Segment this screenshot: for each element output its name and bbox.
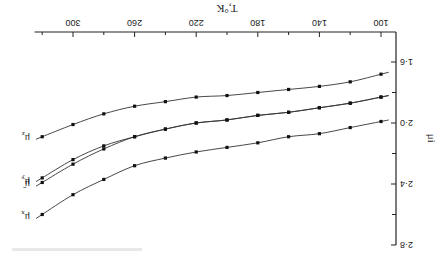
series-label: μx [21, 209, 30, 223]
data-point [41, 176, 44, 179]
y-tick-label: 2·0 [400, 118, 413, 128]
data-point [318, 85, 321, 88]
x-tick-label: 300 [65, 18, 80, 28]
series-line-3 [36, 120, 389, 219]
data-point [41, 135, 44, 138]
data-point [133, 135, 136, 138]
data-point [71, 158, 74, 161]
data-point [195, 150, 198, 153]
data-point [287, 88, 290, 91]
x-tick-label: 260 [127, 18, 142, 28]
data-point [318, 132, 321, 135]
x-tick-label: 180 [250, 18, 265, 28]
data-point [379, 95, 382, 98]
rotated-plot-group: 100140180220260300T,°K1·62·02·42·8μi μzμ… [21, 3, 438, 250]
data-point [102, 112, 105, 115]
data-point [225, 118, 228, 121]
chart-container: 100140180220260300T,°K1·62·02·42·8μi μzμ… [0, 0, 446, 260]
x-tick-label: 100 [373, 18, 388, 28]
data-point [349, 102, 352, 105]
data-point [256, 91, 259, 94]
data-point [379, 73, 382, 76]
series-group [36, 72, 389, 218]
data-point [287, 135, 290, 138]
series-line-1 [36, 96, 389, 182]
data-point [41, 213, 44, 216]
scan-artifact [12, 248, 142, 251]
data-point [71, 163, 74, 166]
data-point [195, 121, 198, 124]
data-point [102, 147, 105, 150]
series-line-2 [36, 96, 389, 187]
x-axis-title: T,°K [216, 3, 237, 15]
y-axis-title: μi [426, 134, 438, 143]
series-labels: μzμ̄μyμx [21, 130, 30, 223]
axes: 100140180220260300T,°K1·62·02·42·8μi [35, 3, 439, 250]
x-tick-label: 140 [312, 18, 327, 28]
data-point [133, 105, 136, 108]
data-point [256, 114, 259, 117]
data-point [195, 95, 198, 98]
y-tick-label: 1·6 [400, 57, 413, 67]
data-point [379, 120, 382, 123]
data-point [349, 80, 352, 83]
data-point [225, 94, 228, 97]
data-point [71, 123, 74, 126]
data-point [164, 156, 167, 159]
data-point [71, 193, 74, 196]
data-point [164, 100, 167, 103]
data-point [133, 164, 136, 167]
data-point [256, 141, 259, 144]
data-point [41, 181, 44, 184]
series-label: μy [21, 174, 30, 188]
data-point [164, 128, 167, 131]
data-point [102, 178, 105, 181]
data-point [318, 106, 321, 109]
y-tick-label: 2·8 [400, 240, 413, 250]
data-point [225, 146, 228, 149]
data-point [349, 126, 352, 129]
x-tick-label: 220 [189, 18, 204, 28]
data-point [287, 111, 290, 114]
data-point [102, 144, 105, 147]
series-label: μz [22, 130, 30, 144]
y-tick-label: 2·4 [400, 179, 413, 189]
chart-svg: 100140180220260300T,°K1·62·02·42·8μi μzμ… [0, 0, 446, 260]
